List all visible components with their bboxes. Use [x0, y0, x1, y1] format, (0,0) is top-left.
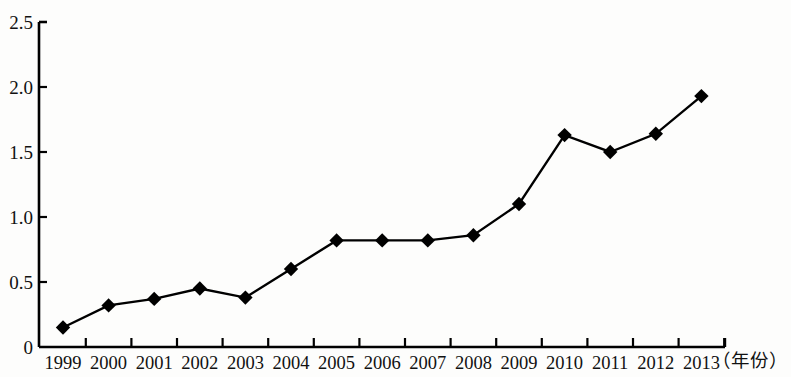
data-point-marker: [512, 197, 526, 211]
x-axis-tick-label: 2007: [409, 354, 446, 373]
y-axis-tick-label: 0.5: [0, 273, 33, 292]
data-point-marker: [284, 262, 298, 276]
data-point-marker: [193, 281, 207, 295]
data-point-marker: [557, 128, 571, 142]
x-axis-tick-label: 2003: [227, 354, 264, 373]
data-point-marker: [101, 298, 115, 312]
x-axis-tick-label: 2006: [364, 354, 401, 373]
data-point-marker: [603, 145, 617, 159]
line-chart: 00.51.01.52.02.5 19992000200120022003200…: [0, 0, 791, 377]
data-point-marker: [329, 233, 343, 247]
x-axis-tick-label: 2010: [546, 354, 583, 373]
x-axis-tick-label: 2002: [181, 354, 218, 373]
y-axis-tick-label: 2.0: [0, 78, 33, 97]
data-point-markers: [56, 89, 709, 335]
data-point-marker: [466, 228, 480, 242]
data-point-marker: [56, 320, 70, 334]
x-axis-tick-label: 2000: [90, 354, 127, 373]
data-point-marker: [375, 233, 389, 247]
y-axis-tick-label: 2.5: [0, 13, 33, 32]
x-axis-tick-label: 2005: [318, 354, 355, 373]
x-axis-tick-label: 1999: [45, 354, 82, 373]
chart-axes: [39, 22, 725, 347]
y-axis-tick-label: 1.5: [0, 143, 33, 162]
data-point-marker: [421, 233, 435, 247]
data-point-marker: [238, 290, 252, 304]
x-axis-tick-label: 2008: [455, 354, 492, 373]
data-point-marker: [147, 292, 161, 306]
x-axis-tick-label: 2001: [136, 354, 173, 373]
x-axis-tick-label: 2011: [592, 354, 628, 373]
data-series-line: [63, 96, 701, 327]
chart-plot-area: [0, 0, 791, 377]
x-axis-tick-label: 2009: [501, 354, 538, 373]
x-axis-tick-label: 2012: [637, 354, 674, 373]
x-axis-tick-label: 2004: [273, 354, 310, 373]
y-axis-tick-label: 0: [0, 338, 33, 357]
chart-tick-marks: [39, 22, 724, 347]
x-axis-title: （年份）: [712, 352, 788, 371]
y-axis-tick-label: 1.0: [0, 208, 33, 227]
